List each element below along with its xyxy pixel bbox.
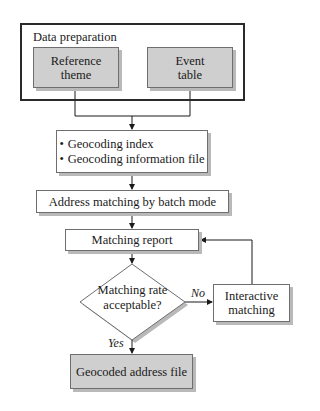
interactive-matching-box: Interactive matching <box>213 284 290 322</box>
decision-line2: acceptable? <box>80 298 185 313</box>
reference-theme-box: Reference theme <box>33 47 119 88</box>
reference-theme-line1: Reference <box>51 54 102 68</box>
interactive-line1: Interactive <box>225 289 278 303</box>
matching-report-box: Matching report <box>65 229 199 251</box>
decision-line1: Matching rate <box>80 283 185 298</box>
event-table-box: Event table <box>147 47 233 88</box>
decision-text: Matching rate acceptable? <box>80 283 185 313</box>
event-table-line2: table <box>178 68 202 82</box>
reference-theme-line2: theme <box>61 68 92 82</box>
matching-report-label: Matching report <box>92 233 173 247</box>
address-matching-box: Address matching by batch mode <box>36 190 229 213</box>
address-matching-label: Address matching by batch mode <box>49 195 216 209</box>
geocoding-box: Geocoding index Geocoding information fi… <box>56 130 208 173</box>
data-preparation-title: Data preparation <box>33 30 117 45</box>
geocoding-item: Geocoding index <box>59 137 204 152</box>
event-table-line1: Event <box>175 54 204 68</box>
geocoded-address-file-label: Geocoded address file <box>76 365 187 379</box>
yes-label: Yes <box>108 336 124 351</box>
geocoded-address-file-box: Geocoded address file <box>70 354 193 389</box>
no-label: No <box>191 286 205 301</box>
interactive-line2: matching <box>228 303 275 317</box>
geocoding-list: Geocoding index Geocoding information fi… <box>59 137 204 167</box>
geocoding-item: Geocoding information file <box>59 152 204 167</box>
